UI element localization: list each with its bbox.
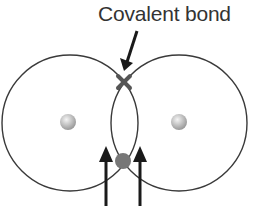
left-nucleus [60,114,76,130]
bond-mark-x-icon [118,76,130,88]
shared-electron [115,153,131,169]
diagram-canvas [0,0,264,211]
right-nucleus [171,114,187,130]
pointer-arrow-icon [120,31,137,71]
spin-up-arrow-left-icon [99,146,113,206]
covalent-bond-label: Covalent bond [98,2,231,26]
spin-up-arrow-right-icon [133,146,147,206]
